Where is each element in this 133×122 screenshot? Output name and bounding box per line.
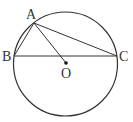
label-c: C [119,49,128,64]
center-point-o [64,61,68,65]
label-b: B [2,49,11,64]
segment-ab [14,23,34,56]
circle-geometry-diagram: A B C O [0,0,133,122]
segment-ac [34,23,117,56]
label-a: A [26,7,37,22]
label-o: O [61,66,71,81]
